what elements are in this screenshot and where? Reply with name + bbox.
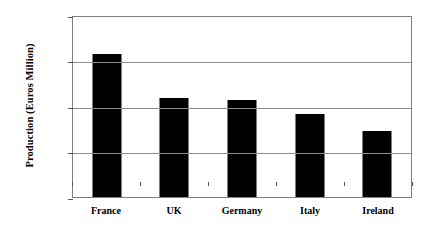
x-axis-label-uk: UK: [140, 205, 208, 216]
y-axis-tick: [68, 17, 73, 18]
y-axis-tick: [68, 199, 73, 200]
bar-germany[interactable]: [227, 100, 256, 197]
x-axis-tick: [208, 182, 209, 186]
y-axis-title: Production (Euros Million): [24, 11, 35, 201]
bar-ireland[interactable]: [363, 131, 392, 197]
x-axis-label-germany: Germany: [208, 205, 276, 216]
x-axis-tick: [276, 182, 277, 186]
gridline: [73, 62, 411, 63]
x-axis-label-ireland: Ireland: [344, 205, 412, 216]
bar-uk[interactable]: [160, 98, 189, 197]
x-axis-tick: [140, 182, 141, 186]
gridline: [73, 153, 411, 154]
bar-chart: Production (Euros Million) FranceUKGerma…: [0, 0, 430, 232]
y-axis-tick: [68, 153, 73, 154]
x-axis-tick: [412, 182, 413, 186]
x-axis-label-italy: Italy: [276, 205, 344, 216]
y-axis-tick: [68, 62, 73, 63]
x-axis-tick: [72, 182, 73, 186]
x-axis-label-france: France: [72, 205, 140, 216]
x-axis-labels: FranceUKGermanyItalyIreland: [72, 205, 412, 216]
x-axis-tick: [344, 182, 345, 186]
plot-area: [72, 16, 412, 198]
gridline: [73, 108, 411, 109]
bar-france[interactable]: [92, 54, 121, 197]
bar-italy[interactable]: [295, 114, 324, 197]
y-axis-tick: [68, 108, 73, 109]
